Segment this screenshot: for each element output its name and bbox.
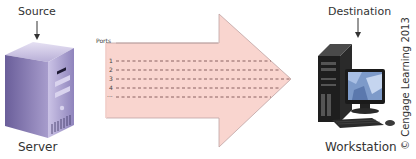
workstation-label: Workstation — [325, 140, 397, 154]
port-4-label: 4 — [109, 84, 113, 91]
copyright-notice: © Cengage Learning 2013 — [400, 17, 411, 150]
destination-label: Destination — [328, 5, 391, 18]
port-2-label: 2 — [109, 66, 113, 73]
desktop-workstation-icon — [318, 44, 395, 128]
source-label: Source — [18, 5, 56, 18]
port-3-label: 3 — [109, 75, 113, 82]
server-label: Server — [18, 140, 57, 154]
data-flow-arrow — [0, 0, 416, 159]
server-tower-icon — [5, 42, 74, 138]
port-1-label: 1 — [109, 57, 113, 64]
ports-label: Ports — [96, 37, 111, 44]
port-more-label: ... — [107, 91, 113, 98]
